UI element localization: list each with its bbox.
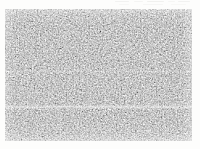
bleed-through-artifact: [113, 0, 198, 7]
micrograph-grain-fine: [5, 9, 192, 141]
micrograph-grain-coarse: [5, 9, 192, 141]
micrograph-image: [5, 9, 192, 141]
scan-band-primary: [5, 105, 192, 109]
panel-edge-fade-vertical: [5, 9, 192, 141]
scan-band-secondary: [5, 70, 192, 73]
panel-tone-wash: [5, 9, 192, 141]
micrograph-grain-pepper: [5, 9, 192, 141]
page-canvas: Grayscale micrograph with uniform fine g…: [0, 0, 200, 149]
micrograph-grain-salt: [5, 9, 192, 141]
panel-edge-fade-horizontal: [5, 9, 192, 141]
